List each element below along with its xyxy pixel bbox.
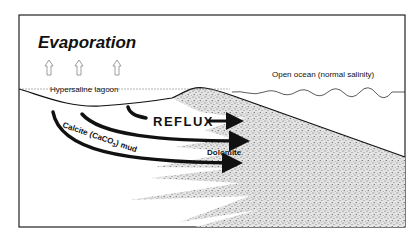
dolomite-label: Dolomite [207,148,242,157]
reflux-label: REFLUX [153,114,214,129]
reflux-dolomitization-diagram: Evaporation Hypersaline lagoon Open ocea… [0,0,418,239]
ocean-label: Open ocean (normal salinity) [272,70,375,79]
evaporation-title: Evaporation [38,33,136,52]
lagoon-label: Hypersaline lagoon [50,85,119,94]
